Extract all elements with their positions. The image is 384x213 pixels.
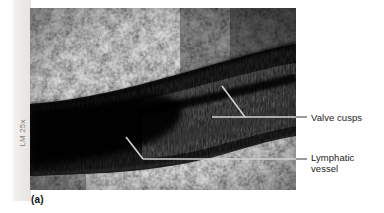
- micrograph-image: [30, 8, 296, 190]
- annotation-label-lymphatic-vessel: Lymphatic vessel: [311, 152, 354, 174]
- annotation-label-valve-cusps: Valve cusps: [311, 112, 362, 123]
- magnification-credit: LM 25x: [16, 107, 30, 159]
- figure-root: LM 25x: [0, 0, 384, 213]
- micrograph-svg: [30, 8, 296, 190]
- panel-letter: (a): [31, 194, 44, 205]
- page-strip: LM 25x: [14, 0, 31, 201]
